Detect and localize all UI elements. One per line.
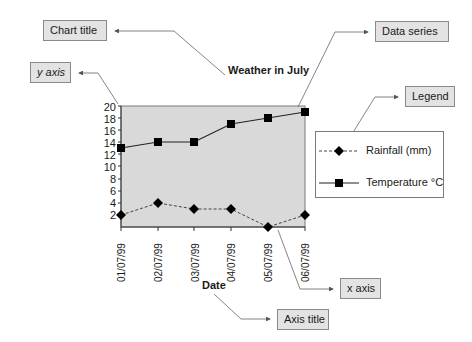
connector-chart-title <box>115 31 225 75</box>
connector-y-axis <box>79 73 118 104</box>
connector-axis-title <box>214 294 270 319</box>
connector-x-axis <box>278 230 333 289</box>
diamond-icon <box>334 146 344 156</box>
legend-swatches <box>316 132 445 199</box>
connector-data-series <box>298 32 368 107</box>
plot-area <box>121 106 305 227</box>
chart-legend: Rainfall (mm) Temperature °C <box>315 131 444 198</box>
connector-legend <box>352 97 398 134</box>
legend-temperature: Temperature °C <box>366 176 443 188</box>
square-icon <box>335 179 343 187</box>
legend-rainfall: Rainfall (mm) <box>366 144 431 156</box>
